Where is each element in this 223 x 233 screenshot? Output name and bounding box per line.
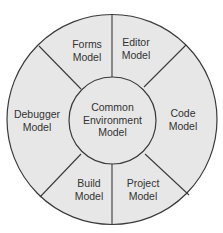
segment-code-model: Code Model: [169, 107, 198, 132]
hub-label-line-2: Environment: [83, 114, 142, 126]
segment-project-line-1: Project: [127, 177, 160, 189]
segment-editor-model: Editor Model: [122, 36, 151, 61]
segment-editor-line-1: Editor: [122, 36, 150, 48]
segment-code-line-1: Code: [170, 107, 195, 119]
segment-debugger-line-1: Debugger: [14, 108, 61, 120]
segment-project-line-2: Model: [129, 190, 158, 202]
segment-project-model: Project Model: [127, 177, 160, 202]
segment-code-line-2: Model: [169, 120, 198, 132]
segment-forms-line-2: Model: [73, 51, 102, 63]
segment-build-line-1: Build: [77, 177, 101, 189]
segment-forms-line-1: Forms: [72, 38, 102, 50]
segment-forms-model: Forms Model: [72, 38, 102, 63]
hub-label-line-3: Model: [98, 126, 127, 138]
segment-editor-line-2: Model: [122, 49, 151, 61]
segment-debugger-line-2: Model: [23, 121, 52, 133]
hub-label-line-1: Common: [91, 101, 134, 113]
segment-build-model: Build Model: [75, 177, 104, 202]
segment-build-line-2: Model: [75, 190, 104, 202]
environment-model-diagram: Common Environment Model Forms Model Edi…: [0, 0, 223, 233]
